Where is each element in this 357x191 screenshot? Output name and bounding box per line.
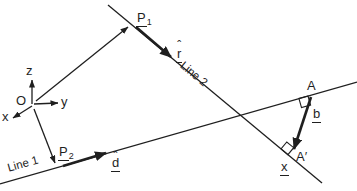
p1-subscript: 1 xyxy=(147,17,152,27)
p1-symbol: P xyxy=(136,11,147,27)
point-p1-label: P1 xyxy=(136,11,152,27)
r-hat-accent: ˆ xyxy=(177,40,181,52)
r-hat-wrap: ˆr xyxy=(176,47,182,63)
figure-canvas: z O y x P1 P2 ˆr ˆd b x A A′ Line 1 Line… xyxy=(0,0,357,191)
y-axis-label: y xyxy=(61,95,68,109)
point-p2-label: P2 xyxy=(58,145,74,161)
z-axis-label: z xyxy=(26,64,33,78)
right-angle-marker-a-prime xyxy=(281,142,294,155)
vector-b xyxy=(294,97,311,149)
x-axis-label: x xyxy=(2,110,9,124)
y-axis-arrow xyxy=(34,103,58,104)
vector-x-label: x xyxy=(280,160,289,176)
p2-subscript: 2 xyxy=(69,151,74,161)
point-a-prime-label: A′ xyxy=(296,150,307,164)
direction-vector-r xyxy=(136,27,171,57)
vector-d-label: ˆd xyxy=(111,156,120,172)
d-hat-accent: ˆ xyxy=(114,151,118,163)
position-vector-p2 xyxy=(34,109,55,163)
origin-label: O xyxy=(16,94,26,108)
vector-r-label: ˆr xyxy=(176,47,182,63)
point-a-label: A xyxy=(307,79,316,93)
d-hat-wrap: ˆd xyxy=(111,156,120,172)
position-vector-p1 xyxy=(36,27,128,101)
vector-b-label: b xyxy=(312,107,321,123)
p2-symbol: P xyxy=(58,145,69,161)
b-symbol: b xyxy=(312,107,321,123)
x-symbol: x xyxy=(280,160,289,176)
